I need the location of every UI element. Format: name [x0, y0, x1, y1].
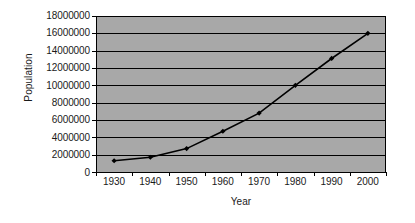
x-tick-label: 1980: [275, 176, 315, 187]
x-tick-label: 2000: [348, 176, 388, 187]
y-axis-ticks: [92, 17, 96, 173]
x-axis-title: Year: [96, 196, 386, 207]
x-tick-label: 1940: [130, 176, 170, 187]
x-tick-label: 1930: [94, 176, 134, 187]
x-tick-label: 1960: [203, 176, 243, 187]
x-tick-label: 1950: [167, 176, 207, 187]
population-line-chart: Population 18000000 16000000 14000000 12…: [0, 0, 415, 223]
plot-background: [96, 16, 386, 172]
x-axis-tick-labels: 1930 1940 1950 1960 1970 1980 1990 2000: [96, 176, 386, 192]
x-tick-label: 1990: [312, 176, 352, 187]
x-tick-label: 1970: [239, 176, 279, 187]
